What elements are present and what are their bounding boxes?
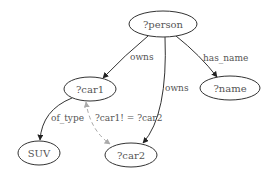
edge-label: owns — [165, 83, 189, 93]
edge-person-has-name: has_name — [176, 36, 248, 77]
edge-label: has_name — [203, 53, 248, 64]
node-suv[interactable]: SUV — [18, 141, 60, 165]
node-label: ?person — [143, 19, 184, 30]
node-label: ?car2 — [117, 150, 145, 161]
graph-canvas: owns owns has_name of_type ?car1! = ?car… — [0, 0, 271, 176]
edge-person-owns-car1: owns — [103, 36, 154, 78]
edge-label: ?car1! = ?car2 — [95, 113, 162, 123]
node-car2[interactable]: ?car2 — [105, 143, 157, 167]
edge-label: of_type — [51, 113, 84, 124]
edge-label: owns — [130, 52, 154, 62]
node-name[interactable]: ?name — [200, 76, 260, 100]
node-person[interactable]: ?person — [129, 11, 197, 37]
node-label: ?car1 — [76, 84, 104, 95]
node-car1[interactable]: ?car1 — [64, 77, 116, 101]
edge-car1-of-type-suv: of_type — [40, 98, 84, 140]
node-label: ?name — [213, 83, 246, 94]
edge-car1-not-equal-car2: ?car1! = ?car2 — [86, 102, 162, 144]
node-label: SUV — [28, 148, 51, 159]
